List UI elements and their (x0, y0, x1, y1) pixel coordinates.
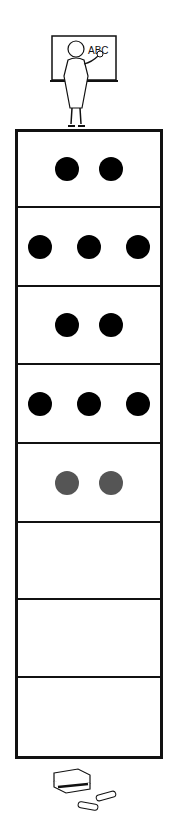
dot (28, 392, 52, 416)
dot (28, 235, 52, 259)
frame-row-7 (18, 600, 160, 678)
frame-row-1 (18, 132, 160, 208)
frame-row-2 (18, 208, 160, 287)
dot (126, 392, 150, 416)
gray-dot (55, 471, 79, 495)
dot (77, 235, 101, 259)
teacher-illustration: ABC (48, 32, 120, 132)
frame-row-4 (18, 365, 160, 444)
frame-row-8 (18, 678, 160, 756)
gray-dot (99, 471, 123, 495)
frame-row-5 (18, 444, 160, 523)
dot (55, 157, 79, 181)
dot (77, 392, 101, 416)
eraser-and-chalk-illustration (48, 763, 138, 813)
frame-row-6 (18, 523, 160, 600)
dot (99, 157, 123, 181)
frame-row-3 (18, 287, 160, 365)
dot (126, 235, 150, 259)
ten-frame (15, 129, 163, 759)
dot (99, 313, 123, 337)
dot (55, 313, 79, 337)
